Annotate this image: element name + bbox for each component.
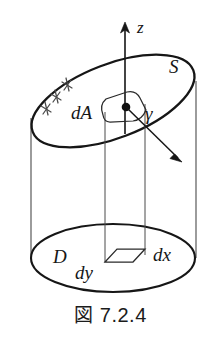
angle-gamma-label: γ <box>145 103 153 124</box>
dy-label: dy <box>75 262 94 283</box>
area-element-label: dA <box>71 102 93 123</box>
surface-s-label: S <box>169 56 179 77</box>
normal-vector-arrow-icon <box>170 154 182 162</box>
domain-d-label: D <box>52 246 67 267</box>
hatching-marks-icon <box>41 78 72 115</box>
figure-container: z S dA γ D dy dx 図 7.2.4 <box>0 0 221 338</box>
projection-parallelogram <box>105 249 145 262</box>
caption-number: 7.2.4 <box>100 304 147 326</box>
dx-label: dx <box>153 244 172 265</box>
figure-drawing: z S dA γ D dy dx <box>0 0 221 338</box>
caption-kanji-label: 図 <box>74 304 94 326</box>
z-axis-label: z <box>136 18 144 37</box>
figure-caption: 図 7.2.4 <box>0 300 221 327</box>
